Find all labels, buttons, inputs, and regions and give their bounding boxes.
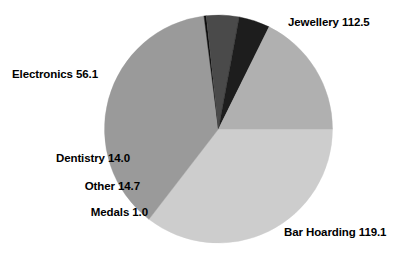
- pie-label-medals: Medals 1.0: [8, 206, 148, 219]
- pie-chart-figure: Jewellery 112.5 Electronics 56.1 Dentist…: [0, 0, 414, 255]
- pie-label-dentistry: Dentistry 14.0: [8, 152, 130, 165]
- pie-label-electronics: Electronics 56.1: [12, 68, 98, 81]
- pie-label-bar-hoarding: Bar Hoarding 119.1: [284, 226, 386, 239]
- pie-label-jewellery: Jewellery 112.5: [288, 16, 370, 29]
- pie-label-other: Other 14.7: [8, 180, 140, 193]
